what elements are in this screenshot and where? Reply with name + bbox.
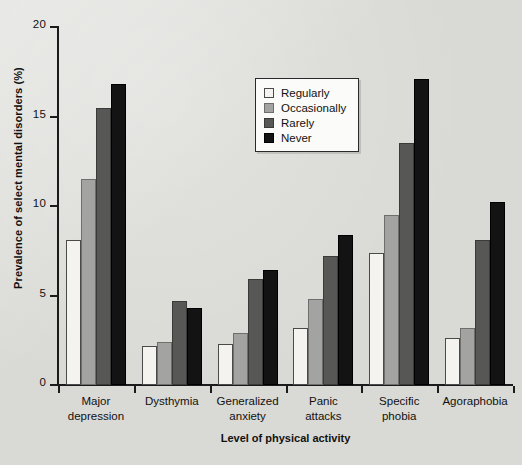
bar [384,215,399,385]
x-axis-title: Level of physical activity [58,432,513,444]
x-axis-category-label: Agoraphobia [420,394,522,409]
bar [460,328,475,385]
legend-swatch-never [264,133,274,143]
y-axis-title: Prevalence of select mental disorders (%… [12,48,24,308]
legend-label: Occasionally [281,102,346,114]
x-axis-tick [437,386,439,393]
bar [142,346,157,385]
bar [172,301,187,385]
bar-group [142,27,202,385]
y-axis-tick-label: 5 [39,287,46,299]
y-axis-tick: 0 [50,384,58,386]
bar [369,253,384,385]
legend-label: Never [281,132,312,144]
x-axis-tick [134,386,136,393]
bar [157,342,172,385]
x-axis-tick [286,386,288,393]
legend-item: Rarely [264,115,346,130]
bar [338,235,353,385]
category-label-line: depression [41,409,151,424]
legend-label: Rarely [281,117,314,129]
y-axis-tick-label: 15 [33,108,46,120]
legend-item: Never [264,130,346,145]
legend-item: Regularly [264,85,346,100]
legend-swatch-occasionally [264,103,274,113]
bar [81,179,96,385]
bar [96,108,111,385]
y-axis-tick-label: 0 [39,376,46,388]
legend-swatch-rarely [264,118,274,128]
x-axis-tick [58,386,60,393]
x-axis-tick [361,386,363,393]
bar [218,344,233,385]
x-axis-tick [513,386,515,393]
bar [445,338,460,385]
y-axis-tick: 15 [50,116,58,118]
legend: RegularlyOccasionallyRarelyNever [255,78,359,152]
legend-swatch-regularly [264,88,274,98]
category-label-line: Agoraphobia [420,394,522,409]
bar [414,79,429,385]
bar [293,328,308,385]
bar-group [66,27,126,385]
category-label-line: phobia [344,409,454,424]
x-axis-tick [210,386,212,393]
bar [490,202,505,385]
bar [111,84,126,385]
bar-group [445,27,505,385]
y-axis-tick-label: 10 [33,197,46,209]
y-axis-tick: 5 [50,295,58,297]
legend-item: Occasionally [264,100,346,115]
bar [187,308,202,385]
bar [399,143,414,385]
bar [66,240,81,385]
chart-figure: 05101520 MajordepressionDysthymiaGeneral… [0,0,522,465]
legend-label: Regularly [281,87,330,99]
y-axis-tick: 20 [50,26,58,28]
bar [233,333,248,385]
bar [248,279,263,385]
bar [323,256,338,385]
bar-group [369,27,429,385]
bar [263,270,278,385]
y-axis-tick: 10 [50,205,58,207]
bar [475,240,490,385]
y-axis-tick-label: 20 [33,18,46,30]
bar [308,299,323,385]
